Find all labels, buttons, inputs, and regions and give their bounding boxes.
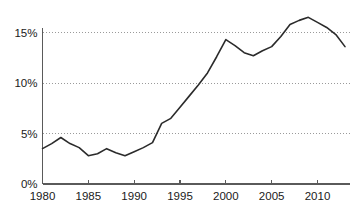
x-tick-label: 2010 — [305, 190, 331, 202]
x-tick-label: 2005 — [259, 190, 285, 202]
x-tick-label: 1995 — [167, 190, 193, 202]
x-tick-label: 1980 — [30, 190, 56, 202]
x-tick-label-group: 1980198519901995200020052010 — [30, 190, 331, 202]
data-series-line — [43, 17, 346, 155]
x-tick-label: 1990 — [121, 190, 147, 202]
x-tick-label: 1985 — [76, 190, 102, 202]
line-chart: 0%5%10%15% 1980198519901995200020052010 — [0, 0, 356, 216]
y-tick-label: 10% — [14, 77, 37, 89]
x-tick-label: 2000 — [213, 190, 239, 202]
y-tick-label-group: 0%5%10%15% — [14, 27, 37, 191]
gridline-group — [43, 33, 351, 134]
y-tick-label: 15% — [14, 27, 37, 39]
y-tick-label: 0% — [21, 178, 38, 190]
chart-canvas: 0%5%10%15% 1980198519901995200020052010 — [0, 0, 356, 216]
y-tick-label: 5% — [21, 128, 38, 140]
